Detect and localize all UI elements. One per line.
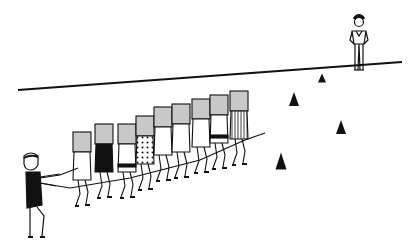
cone-icon [276, 153, 287, 170]
board [230, 91, 248, 111]
standing-figure [350, 16, 368, 71]
board-carrier [136, 116, 154, 190]
board [172, 104, 190, 124]
board-carrier [118, 124, 136, 198]
board [136, 116, 154, 136]
cone-icon [289, 92, 299, 106]
board [210, 95, 228, 115]
board-carrier [210, 95, 228, 169]
board-carrier [95, 124, 113, 198]
board [118, 124, 136, 144]
board [154, 107, 172, 127]
board [73, 132, 91, 152]
board [95, 124, 113, 144]
illustration [0, 0, 418, 249]
board-carriers [73, 91, 248, 206]
leader-figure [24, 153, 60, 237]
cones [276, 74, 347, 170]
board [192, 99, 210, 119]
board-carrier [230, 91, 248, 165]
field-line [18, 62, 402, 90]
cone-icon [318, 74, 326, 83]
cone-icon [336, 120, 346, 134]
